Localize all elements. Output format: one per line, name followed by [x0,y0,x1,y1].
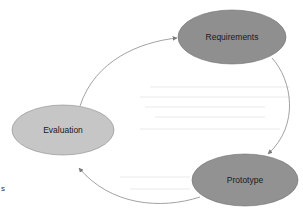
cycle-diagram: Requirements Evaluation Prototype [0,0,303,220]
edge-prototype-to-evaluation [79,168,200,203]
node-evaluation: Evaluation [12,105,114,155]
margin-text: s [1,184,5,193]
node-label-prototype: Prototype [227,175,264,185]
node-requirements: Requirements [178,10,286,64]
node-label-evaluation: Evaluation [43,125,83,135]
node-prototype: Prototype [192,154,298,206]
node-label-requirements: Requirements [206,32,259,42]
edge-evaluation-to-requirements [80,38,177,106]
edge-requirements-to-prototype [268,58,290,154]
